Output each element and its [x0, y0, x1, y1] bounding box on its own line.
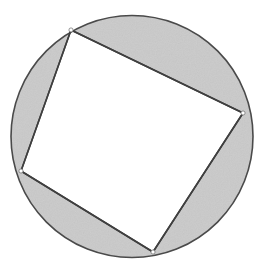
figure-canvas: [0, 0, 262, 272]
vertex-marker-b: [241, 111, 245, 115]
geometric-figure: [0, 0, 262, 272]
vertex-marker-c: [151, 250, 155, 254]
vertex-marker-d: [19, 169, 23, 173]
vertex-marker-a: [69, 28, 73, 32]
